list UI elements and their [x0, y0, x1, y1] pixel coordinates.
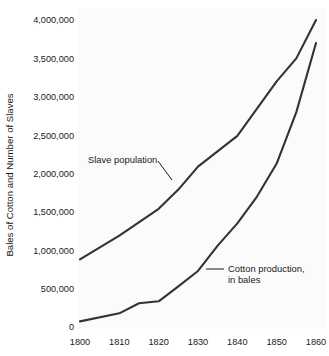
annotation-label-line2: in bales	[228, 274, 261, 285]
x-tick-label: 1810	[109, 337, 129, 347]
y-tick-label: 3,500,000	[33, 54, 74, 64]
x-tick-label: 1840	[227, 337, 247, 347]
x-tick-label: 1820	[148, 337, 168, 347]
y-tick-label: 2,500,000	[33, 131, 74, 141]
y-tick-label: 0	[69, 322, 74, 332]
y-tick-label: 500,000	[41, 284, 74, 294]
y-tick-label: 1,500,000	[33, 207, 74, 217]
y-tick-label: 4,000,000	[33, 15, 74, 25]
x-tick-label: 1800	[70, 337, 90, 347]
x-tick-label: 1850	[266, 337, 286, 347]
plot-area-background	[78, 8, 327, 329]
y-axis-title: Bales of Cotton and Number of Slaves	[4, 93, 15, 256]
annotation-label: Slave population	[88, 154, 157, 165]
line-chart: 0500,0001,000,0001,500,0002,000,0002,500…	[0, 0, 329, 356]
annotation-label: Cotton production,	[228, 263, 305, 274]
x-tick-label: 1860	[306, 337, 326, 347]
y-axis-title-text: Bales of Cotton and Number of Slaves	[4, 93, 15, 256]
plot-area	[78, 8, 327, 329]
chart-container: 0500,0001,000,0001,500,0002,000,0002,500…	[0, 0, 329, 356]
x-tick-label: 1830	[188, 337, 208, 347]
y-tick-label: 1,000,000	[33, 246, 74, 256]
y-tick-label: 3,000,000	[33, 92, 74, 102]
y-tick-label: 2,000,000	[33, 169, 74, 179]
